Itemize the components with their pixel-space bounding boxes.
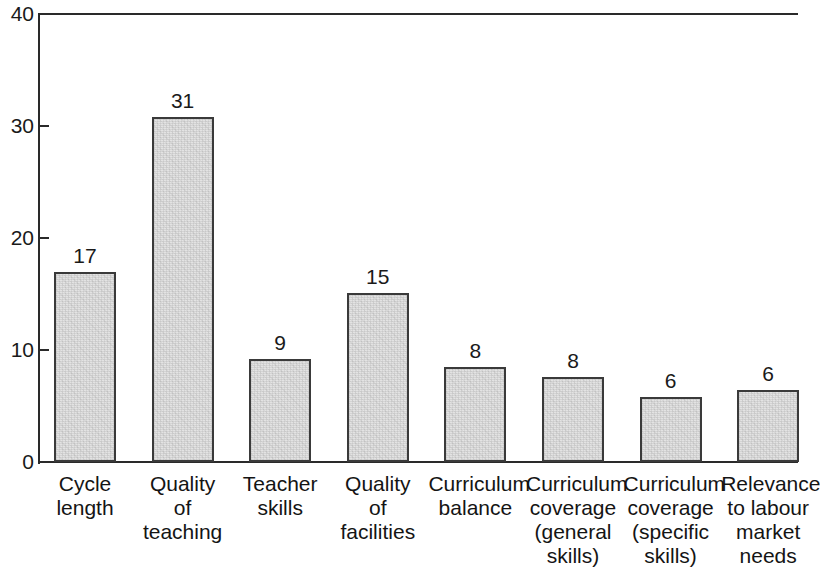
x-axis-category-label: Curriculum coverage (specific skills) <box>624 472 718 568</box>
x-axis-category-label: Curriculum balance <box>428 472 522 520</box>
bar <box>640 397 702 462</box>
bar <box>54 272 116 462</box>
bar-value-label: 6 <box>620 370 722 391</box>
x-axis-category-label: Quality of teaching <box>136 472 230 544</box>
bar-value-label: 31 <box>132 90 234 111</box>
bar <box>249 359 311 462</box>
bar-value-label: 6 <box>717 363 819 384</box>
bar <box>444 367 506 462</box>
bar-value-label: 8 <box>522 350 624 371</box>
x-axis-category-label: Teacher skills <box>233 472 327 520</box>
x-axis-category-label: Relevance to labour market needs <box>721 472 815 568</box>
x-axis-category-label: Curriculum coverage (general skills) <box>526 472 620 568</box>
x-axis-category-label: Cycle length <box>38 472 132 520</box>
bar-value-label: 8 <box>424 340 526 361</box>
x-axis-category-label: Quality of facilities <box>331 472 425 544</box>
bar <box>737 390 799 462</box>
bar <box>152 117 214 462</box>
bar <box>542 377 604 462</box>
bar <box>347 293 409 462</box>
bar-value-label: 17 <box>34 245 136 266</box>
bar-value-label: 9 <box>229 332 331 353</box>
bar-value-label: 15 <box>327 266 429 287</box>
